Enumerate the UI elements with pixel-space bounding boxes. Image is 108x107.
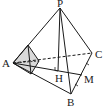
pyramid-diagram: P A C B H M — [0, 0, 108, 107]
label-C: C — [95, 48, 102, 60]
label-H: H — [55, 72, 63, 84]
label-B: B — [67, 96, 74, 107]
label-A: A — [2, 57, 10, 69]
segment-PH — [58, 8, 60, 71]
label-P: P — [57, 0, 63, 9]
label-M: M — [84, 73, 94, 85]
